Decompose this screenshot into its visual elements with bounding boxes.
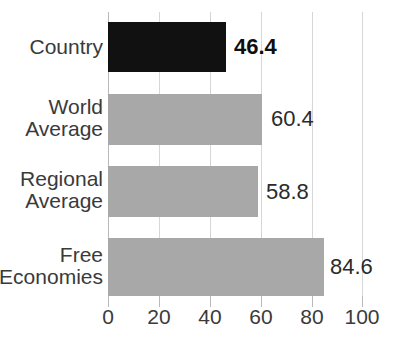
- category-line: World: [25, 96, 103, 118]
- category-line: Average: [25, 118, 103, 140]
- value-label-world-average: 60.4: [271, 108, 314, 130]
- x-axis-tick-label: 60: [249, 306, 272, 327]
- x-axis-tick-label: 20: [147, 306, 170, 327]
- category-line: Average: [20, 190, 103, 212]
- category-label-regional-average: Regional Average: [20, 168, 103, 213]
- value-label-country: 46.4: [234, 36, 277, 58]
- category-label-world-average: World Average: [25, 96, 103, 141]
- bar-country: [108, 22, 226, 72]
- bar-free-economies: [108, 238, 324, 296]
- category-label-free-economies: Free Economies: [0, 244, 103, 289]
- x-axis-tick-label: 80: [300, 306, 323, 327]
- category-line: Regional: [20, 168, 103, 190]
- bar-chart: 46.4 60.4 58.8 84.6 Country World Averag…: [0, 0, 395, 354]
- x-axis-tick-label: 0: [102, 306, 114, 327]
- x-axis-tick-label: 40: [198, 306, 221, 327]
- category-line: Free: [0, 244, 103, 266]
- category-line: Country: [29, 36, 103, 58]
- category-label-country: Country: [29, 36, 103, 58]
- bar-regional-average: [108, 166, 258, 217]
- value-label-regional-average: 58.8: [266, 181, 309, 203]
- value-label-free-economies: 84.6: [330, 256, 373, 278]
- bar-world-average: [108, 94, 262, 145]
- x-axis-tick-label: 100: [344, 306, 379, 327]
- category-line: Economies: [0, 266, 103, 288]
